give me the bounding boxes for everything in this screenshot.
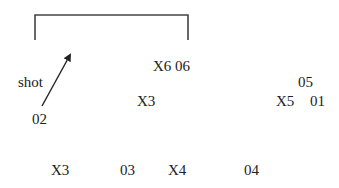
label-02: 02 [32,112,47,127]
label-01: 01 [310,94,325,109]
label-03: 03 [120,163,135,178]
label-x3-bottom: X3 [51,163,69,178]
label-x3-mid: X3 [137,94,155,109]
arrow-line [42,55,70,106]
bracket-line [35,15,188,40]
label-05: 05 [298,75,313,90]
label-04: 04 [244,163,259,178]
diagram-canvas: shot 02 X6 06 X3 05 X5 01 X3 03 X4 04 [0,0,339,188]
label-x4: X4 [168,163,186,178]
label-x6-06: X6 06 [153,59,190,74]
label-shot: shot [18,75,43,90]
label-x5: X5 [276,94,294,109]
